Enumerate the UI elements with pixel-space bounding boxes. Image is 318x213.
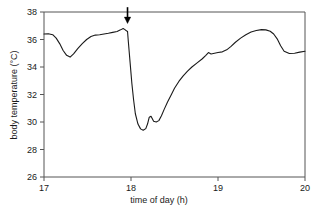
y-tick-label: 36 [27,35,37,45]
y-tick-label: 38 [27,7,37,17]
x-axis-title: time of day (h) [130,195,188,205]
y-tick-label: 32 [27,90,37,100]
y-tick-label: 30 [27,117,37,127]
y-tick-label: 28 [27,145,37,155]
chart-figure: 17181920 26283032343638 time of day (h) … [0,0,318,213]
x-tick-label: 17 [39,183,49,193]
x-tick-label: 19 [213,183,223,193]
x-tick-label: 20 [300,183,310,193]
line-chart: 17181920 26283032343638 time of day (h) … [0,0,318,213]
y-tick-label: 26 [27,172,37,182]
y-tick-label: 34 [27,62,37,72]
x-tick-label: 18 [126,183,136,193]
y-axis-title: body temperature (°C) [9,50,19,139]
